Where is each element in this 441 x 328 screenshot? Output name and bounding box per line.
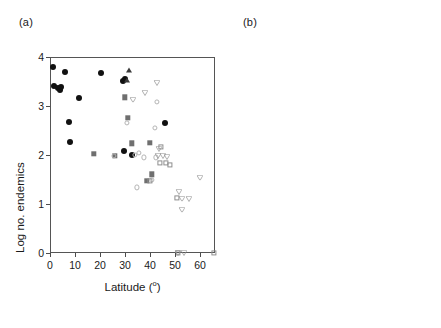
y-tick — [46, 253, 50, 254]
data-point-gray-square — [144, 178, 149, 183]
data-point-filled-circle — [55, 85, 61, 91]
data-point-filled-circle — [58, 84, 64, 90]
data-point-open-circle — [134, 185, 139, 190]
panel-a-label: (a) — [19, 16, 33, 28]
x-tick-label: 0 — [47, 259, 53, 271]
data-point-gray-square — [112, 153, 117, 158]
x-tick — [125, 253, 126, 257]
x-tick-label: 50 — [169, 259, 181, 271]
panel-a-x-axis-title-tail: ) — [157, 281, 161, 293]
data-point-open-circle — [152, 125, 157, 130]
x-tick — [50, 253, 51, 257]
data-point-open-square — [163, 160, 168, 165]
data-point-open-circle — [141, 155, 146, 160]
data-point-open-square — [211, 250, 216, 255]
panel-a-plot-area — [50, 57, 215, 253]
data-point-open-square — [147, 178, 152, 183]
x-tick-label: 40 — [144, 259, 156, 271]
data-point-open-triangle — [178, 207, 184, 213]
data-point-open-circle — [153, 155, 158, 160]
data-point-filled-circle — [98, 70, 104, 76]
x-tick — [75, 253, 76, 257]
data-point-open-square — [157, 160, 162, 165]
data-point-gray-square — [147, 140, 152, 145]
data-point-gray-square — [91, 151, 96, 156]
x-tick — [200, 253, 201, 257]
y-tick — [46, 155, 50, 156]
figure-scatter-endemics: (a) Log no. endemics 010203040506001234 … — [0, 0, 441, 328]
x-tick — [150, 253, 151, 257]
data-point-filled-circle — [120, 78, 126, 84]
data-point-open-triangle — [181, 250, 187, 256]
y-tick — [46, 106, 50, 107]
y-tick — [46, 57, 50, 58]
panel-a: (a) Log no. endemics 010203040506001234 … — [0, 0, 220, 328]
data-point-filled-circle — [67, 139, 73, 145]
x-tick-label: 20 — [94, 259, 106, 271]
data-point-open-triangle — [129, 97, 135, 103]
y-tick-label: 2 — [24, 149, 44, 161]
data-point-filled-circle — [162, 120, 168, 126]
data-point-open-triangle — [197, 175, 203, 181]
y-tick-label: 4 — [24, 51, 44, 63]
data-point-filled-circle — [50, 64, 56, 70]
panel-a-x-axis-title: Latitude (o) — [105, 279, 161, 293]
x-tick-label: 10 — [69, 259, 81, 271]
y-tick — [46, 204, 50, 205]
data-point-gray-square — [129, 141, 134, 146]
data-point-filled-circle — [76, 95, 82, 101]
data-point-gray-square — [149, 171, 154, 176]
data-point-gray-square — [122, 94, 127, 99]
data-point-open-triangle — [186, 196, 192, 202]
data-point-open-circle — [149, 177, 154, 182]
data-point-open-circle — [154, 100, 159, 105]
data-point-open-triangle — [159, 153, 165, 159]
data-point-open-triangle — [163, 154, 169, 160]
x-tick-label: 30 — [119, 259, 131, 271]
data-point-open-circle — [132, 152, 137, 157]
data-point-filled-circle — [129, 152, 135, 158]
data-point-filled-circle — [122, 76, 128, 82]
y-tick-label: 0 — [24, 247, 44, 259]
data-point-filled-circle — [121, 148, 127, 154]
panel-a-x-axis-title-text: Latitude ( — [105, 281, 153, 293]
panel-a-data-layer — [51, 58, 214, 252]
data-point-open-triangle — [141, 90, 147, 96]
data-point-filled-triangle — [126, 68, 132, 73]
data-point-open-square — [158, 144, 163, 149]
data-point-open-triangle — [156, 146, 162, 152]
data-point-filled-circle — [57, 87, 63, 93]
y-tick-label: 3 — [24, 100, 44, 112]
panel-b-label: (b) — [243, 16, 257, 28]
data-point-open-triangle — [175, 189, 181, 195]
data-point-filled-triangle — [124, 77, 130, 82]
x-tick-label: 60 — [194, 259, 206, 271]
data-point-open-circle — [136, 150, 141, 155]
data-point-filled-circle — [51, 83, 57, 89]
data-point-open-square — [174, 195, 179, 200]
x-tick — [175, 253, 176, 257]
data-point-open-circle — [124, 120, 129, 125]
panel-b: (b) Log no. endemics 3.03.54.04.55.05.56… — [220, 0, 440, 328]
data-point-filled-circle — [66, 119, 72, 125]
x-tick — [100, 253, 101, 257]
y-tick-label: 1 — [24, 198, 44, 210]
data-point-filled-circle — [62, 69, 68, 75]
data-point-open-square — [167, 163, 172, 168]
data-point-open-circle — [111, 153, 116, 158]
data-point-open-triangle — [154, 80, 160, 86]
data-point-open-triangle — [154, 154, 160, 160]
data-point-gray-square — [125, 115, 130, 120]
data-point-open-triangle — [179, 196, 185, 202]
